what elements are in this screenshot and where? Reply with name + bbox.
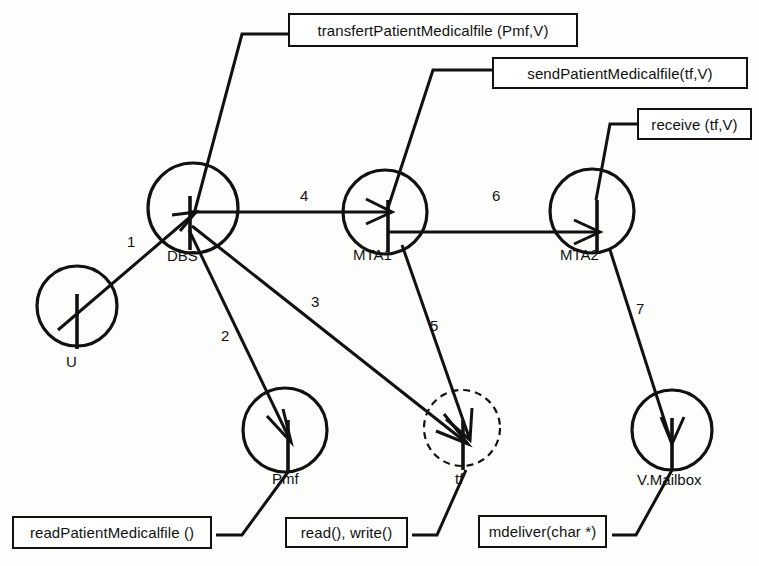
node-label-mta1: MTA1 — [353, 246, 392, 263]
node-group-u[interactable] — [37, 266, 117, 349]
operation-box-receive[interactable]: receive (tf,V) — [637, 108, 752, 140]
message-line-2 — [189, 230, 291, 442]
node-label-dbs: DBS — [167, 247, 198, 264]
node-group-mta2[interactable] — [550, 169, 634, 253]
node-circle-mta2[interactable] — [550, 169, 634, 253]
message-arrow-2[interactable] — [189, 230, 291, 442]
node-label-u: U — [66, 353, 77, 370]
node-label-tf: tf — [455, 470, 463, 487]
operation-box-mdeliver[interactable]: mdeliver(char *) — [478, 515, 607, 548]
sequence-number-5: 5 — [430, 317, 438, 334]
sequence-number-3: 3 — [311, 293, 319, 310]
diagram-canvas: U DBS MTA1 MTA2 Pmf tf V.Mailbox 1 2 3 4… — [0, 0, 759, 566]
message-line-5 — [402, 245, 470, 440]
message-arrow-1[interactable] — [58, 212, 196, 330]
sequence-number-6: 6 — [492, 187, 500, 204]
message-arrow-7[interactable] — [610, 250, 684, 444]
node-label-vmailbox: V.Mailbox — [637, 471, 701, 488]
node-group-vmailbox[interactable] — [632, 390, 712, 470]
message-arrow-5[interactable] — [402, 245, 472, 440]
sequence-number-2: 2 — [221, 327, 229, 344]
sequence-number-4: 4 — [300, 187, 308, 204]
node-label-pmf: Pmf — [272, 470, 299, 487]
message-line-3 — [192, 226, 468, 444]
message-line-7 — [610, 250, 672, 444]
message-line-1 — [58, 212, 196, 330]
message-arrow-6[interactable] — [388, 220, 600, 244]
message-arrow-4[interactable] — [190, 199, 392, 224]
message-arrow-3[interactable] — [192, 226, 468, 444]
leader-line-send — [386, 70, 492, 214]
operation-box-send[interactable]: sendPatientMedicalfile(tf,V) — [492, 57, 748, 89]
leader-line-transfert — [194, 34, 288, 214]
operation-box-readpatientmedicalfile[interactable]: readPatientMedicalfile () — [12, 516, 212, 549]
sequence-number-7: 7 — [636, 300, 644, 317]
leader-line-receive — [596, 124, 637, 200]
operation-box-readwrite[interactable]: read(), write() — [285, 517, 408, 548]
node-group-tf[interactable] — [424, 390, 500, 470]
node-label-mta2: MTA2 — [560, 246, 599, 263]
sequence-number-1: 1 — [127, 233, 135, 250]
operation-box-transfert[interactable]: transfertPatientMedicalfile (Pmf,V) — [288, 13, 578, 47]
